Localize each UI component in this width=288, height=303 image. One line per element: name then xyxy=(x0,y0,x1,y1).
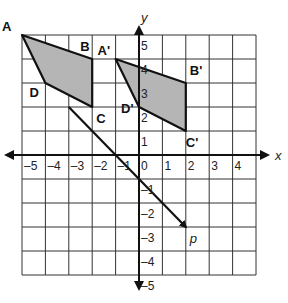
y-tick-label: 4 xyxy=(141,63,148,77)
y-tick-label: –1 xyxy=(141,183,155,197)
vertex-label: A' xyxy=(98,43,110,58)
vertex-label: B' xyxy=(190,63,202,78)
x-tick-label: 0 xyxy=(141,159,148,173)
y-tick-label: 1 xyxy=(141,135,148,149)
y-tick-label: –3 xyxy=(141,231,155,245)
y-axis-up-arrow-icon xyxy=(134,25,144,35)
vertex-label: D xyxy=(29,85,38,100)
vertex-label: D' xyxy=(121,101,133,116)
x-tick-label: –5 xyxy=(24,159,38,173)
vertex-label: C' xyxy=(186,135,198,150)
vertex-label: C xyxy=(96,111,106,126)
x-tick-label: –3 xyxy=(71,159,85,173)
coordinate-grid: xy–5–4–3–2–10123454321–1–2–3–4–5ABCDA'B'… xyxy=(0,0,288,303)
quadrilateral-image xyxy=(116,59,186,131)
x-tick-label: –2 xyxy=(94,159,108,173)
vertex-label: B xyxy=(80,39,89,54)
vector-label: p xyxy=(189,231,197,246)
y-tick-label: 3 xyxy=(141,87,148,101)
y-tick-label: 2 xyxy=(141,111,148,125)
x-tick-label: 3 xyxy=(211,159,218,173)
x-tick-label: –1 xyxy=(118,159,132,173)
x-axis-left-arrow-icon xyxy=(4,150,14,160)
y-tick-label: 5 xyxy=(141,39,148,53)
x-tick-label: 1 xyxy=(164,159,171,173)
y-tick-label: –4 xyxy=(141,255,155,269)
y-tick-label: –5 xyxy=(141,279,155,293)
y-axis-label: y xyxy=(140,10,149,25)
x-tick-label: 2 xyxy=(188,159,195,173)
x-axis-right-arrow-icon xyxy=(260,150,270,160)
y-tick-label: –2 xyxy=(141,207,155,221)
vertex-label: A xyxy=(2,19,12,34)
x-tick-label: 4 xyxy=(235,159,242,173)
x-tick-label: –4 xyxy=(47,159,61,173)
x-axis-label: x xyxy=(274,148,282,163)
